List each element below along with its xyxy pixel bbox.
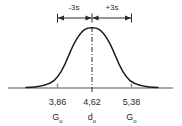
tick-symbol-lower-subscript: u	[59, 118, 62, 124]
tick-symbol-center-subscript: o	[93, 118, 97, 124]
span-arrow-group: -3s +3s	[58, 3, 132, 23]
span-label-left: -3s	[68, 3, 79, 12]
span-label-right: +3s	[105, 3, 118, 12]
tick-value-center: 4,62	[83, 97, 101, 107]
arrow-head-right-outer-icon	[125, 15, 131, 20]
tick-value-upper: 5,38	[123, 97, 141, 107]
arrow-head-left-outer-icon	[58, 15, 64, 20]
tick-symbol-lower: Gu	[52, 112, 62, 124]
gauss-curve-figure: -3s +3s 3,86 4,62 5,38 Gu do Go	[0, 0, 182, 126]
tick-symbol-upper-subscript: o	[133, 118, 137, 124]
tick-symbol-center: do	[88, 112, 97, 124]
arrow-head-left-inner-icon	[86, 15, 92, 20]
arrow-head-right-inner-icon	[93, 15, 99, 20]
gauss-curve-chart: -3s +3s 3,86 4,62 5,38 Gu do Go	[0, 0, 182, 126]
tick-symbol-lower-base: G	[52, 112, 59, 122]
tick-symbol-upper-base: G	[126, 112, 133, 122]
tick-value-lower: 3,86	[49, 97, 67, 107]
tick-symbol-upper: Go	[126, 112, 137, 124]
